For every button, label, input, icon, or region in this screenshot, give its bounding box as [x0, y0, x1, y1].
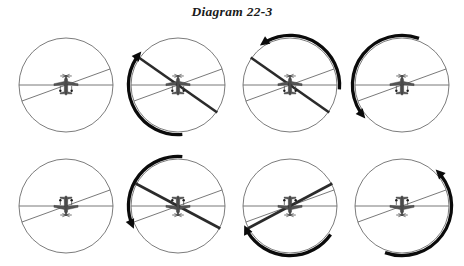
panel-6: [120, 148, 236, 264]
aircraft-symbol: [54, 74, 78, 95]
panel-1: [8, 27, 124, 143]
rotation-arrow-arc: [128, 156, 182, 221]
aircraft-symbol: [390, 196, 414, 217]
rotation-arrow-arc: [267, 35, 340, 89]
figure-grid: [0, 0, 464, 266]
panel-8: [344, 148, 460, 264]
panel-3: [232, 27, 348, 143]
panel-5: [8, 148, 124, 264]
rotation-arrow-arc: [352, 35, 419, 112]
aircraft-symbol: [390, 74, 414, 95]
diagram-page: Diagram 22-3: [0, 0, 464, 266]
panel-4: [344, 27, 460, 143]
aircraft-symbol: [278, 196, 302, 217]
aircraft-symbol: [166, 196, 190, 217]
aircraft-symbol: [54, 196, 78, 217]
panel-2: [120, 27, 236, 143]
panel-7: [232, 148, 348, 264]
rotation-arrow-arc: [385, 175, 452, 255]
